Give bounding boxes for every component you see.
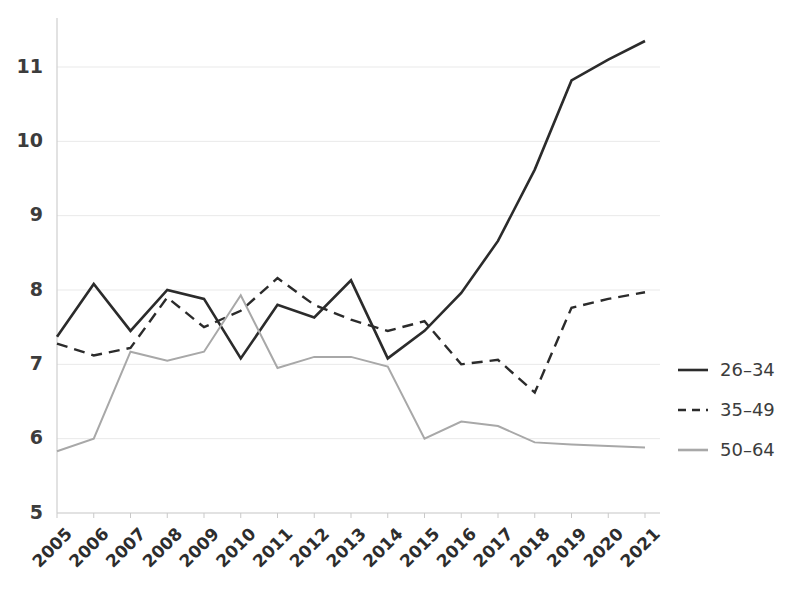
chart-canvas: 567891011 200520062007200820092010201120… — [0, 0, 790, 598]
y-tick-label: 6 — [30, 426, 43, 448]
x-tick-label: 2014 — [359, 524, 407, 572]
y-tick-label: 11 — [17, 55, 43, 77]
x-tick-label: 2007 — [102, 524, 150, 572]
x-tick-label: 2016 — [432, 524, 480, 572]
x-axis — [57, 513, 660, 518]
data-series — [57, 41, 645, 451]
x-tick-label: 2011 — [249, 524, 297, 572]
line-chart: 567891011 200520062007200820092010201120… — [0, 0, 790, 598]
x-tick-label: 2021 — [616, 524, 664, 572]
x-tick-label: 2009 — [175, 524, 223, 572]
y-tick-labels: 567891011 — [17, 55, 43, 523]
x-tick-label: 2017 — [469, 524, 517, 572]
y-tick-label: 9 — [30, 203, 43, 225]
x-tick-label: 2018 — [506, 524, 554, 572]
legend-label: 50–64 — [720, 439, 775, 460]
gridlines — [57, 67, 660, 513]
x-tick-label: 2005 — [28, 524, 76, 572]
y-tick-label: 5 — [30, 501, 43, 523]
x-tick-labels: 2005200620072008200920102011201220132014… — [28, 524, 664, 572]
x-tick-label: 2008 — [138, 524, 186, 572]
x-tick-label: 2012 — [285, 524, 333, 572]
x-tick-label: 2015 — [396, 524, 444, 572]
x-tick-label: 2020 — [579, 524, 627, 572]
x-tick-label: 2010 — [212, 524, 260, 572]
x-tick-label: 2006 — [65, 524, 113, 572]
series-line-26-34 — [57, 41, 645, 358]
series-line-35-49 — [57, 278, 645, 392]
series-line-50-64 — [57, 295, 645, 451]
y-tick-label: 10 — [17, 129, 43, 151]
x-tick-label: 2013 — [322, 524, 370, 572]
legend: 26–3435–4950–64 — [678, 359, 775, 460]
y-tick-label: 7 — [30, 352, 43, 374]
legend-label: 35–49 — [720, 399, 775, 420]
y-tick-label: 8 — [30, 278, 43, 300]
x-tick-label: 2019 — [543, 524, 591, 572]
legend-label: 26–34 — [720, 359, 775, 380]
